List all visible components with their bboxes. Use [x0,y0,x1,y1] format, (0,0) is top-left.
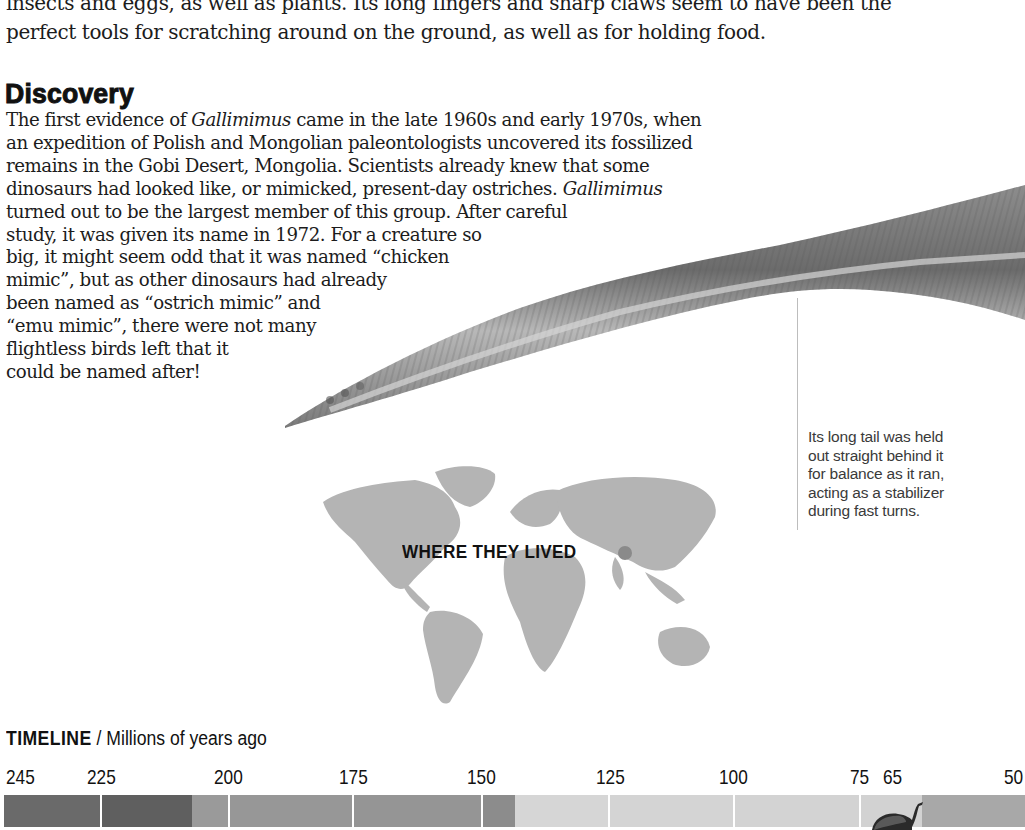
text-run: been named as “ostrich mimic” and [6,292,320,313]
timeline-tick-label: 100 [719,765,748,789]
callout-line: for balance as it ran, [808,465,1023,484]
timeline-tick-label: 245 [6,765,35,789]
text-run: an expedition of Polish and Mongolian pa… [6,132,692,153]
timeline-tick-label: 125 [596,765,625,789]
timeline-tick-label: 50 [1004,765,1023,789]
text-run: turned out to be the largest member of t… [6,201,567,222]
text-run: could be named after! [6,361,200,382]
text-run: dinosaurs had looked like, or mimicked, … [6,178,563,199]
discovery-line: could be named after! [6,361,200,382]
timeline-divider [859,795,861,827]
timeline-tick-label: 75 [850,765,869,789]
timeline-segment [192,795,228,827]
timeline-segment [102,795,192,827]
timeline-divider [228,795,230,827]
dinosaur-silhouette-icon [866,800,926,830]
timeline-segment [922,795,1025,827]
location-dot-icon [618,546,632,560]
world-map [315,462,725,712]
timeline-tick-label: 150 [467,765,496,789]
timeline-divider [352,795,354,827]
discovery-line: been named as “ostrich mimic” and [6,292,320,313]
map-label: WHERE THEY LIVED [402,541,577,563]
species-name: Gallimimus [191,109,291,130]
timeline-divider [100,795,102,827]
timeline-segment [353,795,481,827]
text-run: The first evidence of [6,109,191,130]
timeline-segment [734,795,859,827]
timeline-segment [4,795,100,827]
discovery-line: remains in the Gobi Desert, Mongolia. Sc… [6,155,649,176]
discovery-line: The first evidence of Gallimimus came in… [6,109,701,130]
timeline-segment [482,795,515,827]
timeline-tick-label: 225 [87,765,116,789]
discovery-line: study, it was given its name in 1972. Fo… [6,224,482,245]
timeline-tick-label: 200 [214,765,243,789]
timeline-segment [609,795,733,827]
timeline-title-unit: / Millions of years ago [92,727,267,749]
callout-leader-line [797,298,798,530]
discovery-line: an expedition of Polish and Mongolian pa… [6,132,692,153]
timeline-tick-label: 65 [883,765,902,789]
discovery-line: mimic”, but as other dinosaurs had alrea… [6,269,387,290]
species-name: Gallimimus [563,178,663,199]
timeline-title: TIMELINE / Millions of years ago [6,727,267,750]
text-run: flightless birds left that it [6,338,228,359]
timeline-tick-label: 175 [339,765,368,789]
callout-line: during fast turns. [808,502,1023,521]
callout-line: out straight behind it [808,447,1023,466]
timeline-segment [515,795,608,827]
tail-callout: Its long tail was held out straight behi… [808,428,1023,521]
section-heading-discovery: Discovery [5,78,134,110]
timeline-segment [229,795,352,827]
text-run: big, it might seem odd that it was named… [6,246,449,267]
text-run: remains in the Gobi Desert, Mongolia. Sc… [6,155,649,176]
timeline-divider [733,795,735,827]
timeline-divider [608,795,610,827]
text-run: mimic”, but as other dinosaurs had alrea… [6,269,387,290]
timeline-divider [481,795,483,827]
text-run: study, it was given its name in 1972. Fo… [6,224,482,245]
callout-line: Its long tail was held [808,428,1023,447]
discovery-line: flightless birds left that it [6,338,228,359]
discovery-line: big, it might seem odd that it was named… [6,246,449,267]
discovery-line: turned out to be the largest member of t… [6,201,567,222]
text-run: came in the late 1960s and early 1970s, … [291,109,701,130]
discovery-line: “emu mimic”, there were not many [6,315,316,336]
discovery-line: dinosaurs had looked like, or mimicked, … [6,178,662,199]
timeline-title-bold: TIMELINE [6,727,92,749]
text-run: “emu mimic”, there were not many [6,315,316,336]
callout-line: acting as a stabilizer [808,484,1023,503]
